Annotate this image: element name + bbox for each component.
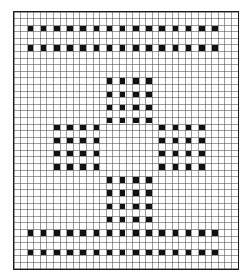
grid-cell-filled — [41, 230, 47, 236]
grid-cell-filled — [173, 138, 179, 144]
grid-cell-filled — [28, 45, 34, 51]
grid-cell-filled — [146, 204, 152, 210]
grid-cell-filled — [159, 250, 165, 256]
grid-cell-filled — [120, 92, 126, 98]
filled-cells — [28, 26, 218, 256]
grid-cell-filled — [94, 138, 100, 144]
grid-cell-filled — [54, 45, 60, 51]
grid-cell-filled — [67, 250, 73, 256]
grid-cell-filled — [120, 204, 126, 210]
grid-cell-filled — [120, 217, 126, 223]
grid-cell-filled — [120, 45, 126, 51]
grid-cell-filled — [173, 45, 179, 51]
grid-cell-filled — [133, 105, 139, 111]
grid-cell-filled — [41, 250, 47, 256]
grid-cell-filled — [146, 105, 152, 111]
grid-cell-filled — [94, 164, 100, 170]
grid-cell-filled — [199, 230, 205, 236]
grid-cell-filled — [67, 26, 73, 32]
grid-cell-filled — [54, 138, 60, 144]
grid-cell-filled — [80, 45, 86, 51]
grid-cell-filled — [107, 78, 113, 84]
grid-cell-filled — [159, 151, 165, 157]
grid-cell-filled — [94, 45, 100, 51]
grid-cell-filled — [186, 230, 192, 236]
grid-cell-filled — [80, 138, 86, 144]
grid-cell-filled — [107, 190, 113, 196]
grid-cell-filled — [186, 45, 192, 51]
grid-cell-filled — [159, 164, 165, 170]
grid-cell-filled — [133, 190, 139, 196]
grid-cell-filled — [173, 26, 179, 32]
grid-cell-filled — [186, 125, 192, 131]
grid-cell-filled — [159, 45, 165, 51]
grid-cell-filled — [146, 190, 152, 196]
grid-cell-filled — [133, 45, 139, 51]
grid-cell-filled — [67, 45, 73, 51]
grid-cell-filled — [146, 230, 152, 236]
grid-cell-filled — [107, 45, 113, 51]
grid-cell-filled — [146, 45, 152, 51]
grid-cell-filled — [94, 250, 100, 256]
grid-cell-filled — [199, 250, 205, 256]
grid-cell-filled — [133, 26, 139, 32]
grid-cell-filled — [107, 230, 113, 236]
grid-cell-filled — [159, 138, 165, 144]
grid-cell-filled — [146, 78, 152, 84]
grid-cell-filled — [199, 125, 205, 131]
grid-cell-filled — [107, 177, 113, 183]
grid-cell-filled — [199, 164, 205, 170]
grid-cell-filled — [133, 230, 139, 236]
grid-cell-filled — [28, 26, 34, 32]
grid-cell-filled — [54, 250, 60, 256]
grid-cell-filled — [94, 230, 100, 236]
grid-cell-filled — [186, 138, 192, 144]
grid-cell-filled — [94, 125, 100, 131]
grid-cell-filled — [120, 78, 126, 84]
grid-cell-filled — [28, 230, 34, 236]
grid-cell-filled — [186, 26, 192, 32]
grid-cell-filled — [159, 125, 165, 131]
grid-cell-filled — [120, 250, 126, 256]
grid-cell-filled — [199, 45, 205, 51]
grid-cell-filled — [146, 250, 152, 256]
grid-cell-filled — [120, 177, 126, 183]
grid-cell-filled — [146, 177, 152, 183]
grid-cell-filled — [107, 217, 113, 223]
grid-cell-filled — [41, 26, 47, 32]
grid-cell-filled — [107, 204, 113, 210]
grid-cell-filled — [120, 118, 126, 124]
grid-cell-filled — [146, 118, 152, 124]
grid-cell-filled — [80, 151, 86, 157]
grid-cell-filled — [80, 250, 86, 256]
grid-canvas — [14, 12, 238, 269]
grid-cell-filled — [120, 105, 126, 111]
grid-cell-filled — [67, 138, 73, 144]
grid-cell-filled — [94, 151, 100, 157]
grid-chart-frame — [13, 11, 239, 270]
grid-cell-filled — [146, 92, 152, 98]
grid-cell-filled — [120, 230, 126, 236]
figure-page — [0, 0, 251, 280]
grid-cell-filled — [67, 164, 73, 170]
grid-cell-filled — [133, 177, 139, 183]
grid-cell-filled — [199, 26, 205, 32]
grid-cell-filled — [173, 125, 179, 131]
grid-cell-filled — [133, 92, 139, 98]
grid-cell-filled — [212, 26, 218, 32]
grid-cell-filled — [133, 250, 139, 256]
grid-cell-filled — [54, 151, 60, 157]
grid-cell-filled — [212, 250, 218, 256]
grid-cell-filled — [173, 250, 179, 256]
grid-cell-filled — [133, 204, 139, 210]
grid-cell-filled — [54, 125, 60, 131]
grid-cell-filled — [146, 217, 152, 223]
grid-cell-filled — [80, 26, 86, 32]
grid-cell-filled — [133, 78, 139, 84]
grid-cell-filled — [54, 230, 60, 236]
grid-cell-filled — [186, 151, 192, 157]
grid-cell-filled — [133, 217, 139, 223]
grid-cell-filled — [159, 230, 165, 236]
grid-cell-filled — [120, 190, 126, 196]
grid-cell-filled — [120, 26, 126, 32]
